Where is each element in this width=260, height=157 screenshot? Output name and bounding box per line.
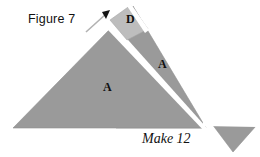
cut-line-corner — [203, 121, 257, 127]
figure-diagram: Figure 7 A A D Make 12 — [0, 0, 260, 157]
figure-caption: Figure 7 — [28, 12, 75, 26]
pointer-arrow-shaft — [86, 14, 106, 32]
pointer-arrow-head — [102, 10, 110, 19]
piece-label-a-left: A — [103, 80, 112, 95]
shape-small-corner-triangle — [212, 124, 256, 152]
piece-label-a-right: A — [158, 57, 167, 72]
make-quantity-caption: Make 12 — [142, 131, 191, 147]
piece-label-d: D — [126, 12, 135, 27]
